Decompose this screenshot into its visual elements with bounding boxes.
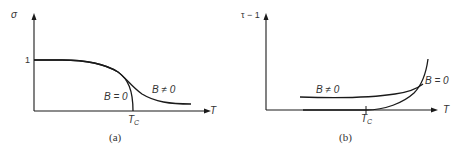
critical-temp-label-a: TC [128, 114, 140, 126]
curve-label-b-zero-b: B = 0 [425, 75, 449, 86]
curve-label-b-nonzero-b: B ≠ 0 [316, 84, 340, 95]
critical-temp-label-b: TC [361, 113, 373, 125]
curve-label-b-zero-a: B = 0 [104, 91, 128, 102]
critical-temp-sub-b: C [367, 118, 373, 125]
svg-text:TC: TC [361, 113, 373, 125]
x-axis-label-b: T [443, 104, 450, 115]
diagram-canvas: σ T 1 B = 0 B ≠ 0 TC (a) τ − 1 T B ≠ 0 B… [0, 0, 468, 153]
y-axis-label-b: τ − 1 [241, 10, 260, 20]
curve-label-b-nonzero-a: B ≠ 0 [152, 84, 176, 95]
y-axis-arrow-b [264, 13, 269, 20]
panel-a: σ T 1 B = 0 B ≠ 0 TC (a) [11, 9, 217, 144]
y-axis-arrow-a [32, 13, 37, 20]
curve-b-zero-a [34, 60, 133, 111]
critical-temp-sub-a: C [134, 119, 140, 126]
svg-text:TC: TC [128, 114, 140, 126]
y-tick-label-one: 1 [25, 55, 30, 65]
caption-a: (a) [109, 131, 122, 144]
caption-b: (b) [339, 131, 352, 144]
x-axis-arrow-b [431, 108, 438, 113]
x-axis-label-a: T [210, 105, 217, 116]
y-axis-label-a: σ [11, 9, 18, 20]
panel-b: τ − 1 T B ≠ 0 B = 0 TC (b) [241, 10, 450, 144]
